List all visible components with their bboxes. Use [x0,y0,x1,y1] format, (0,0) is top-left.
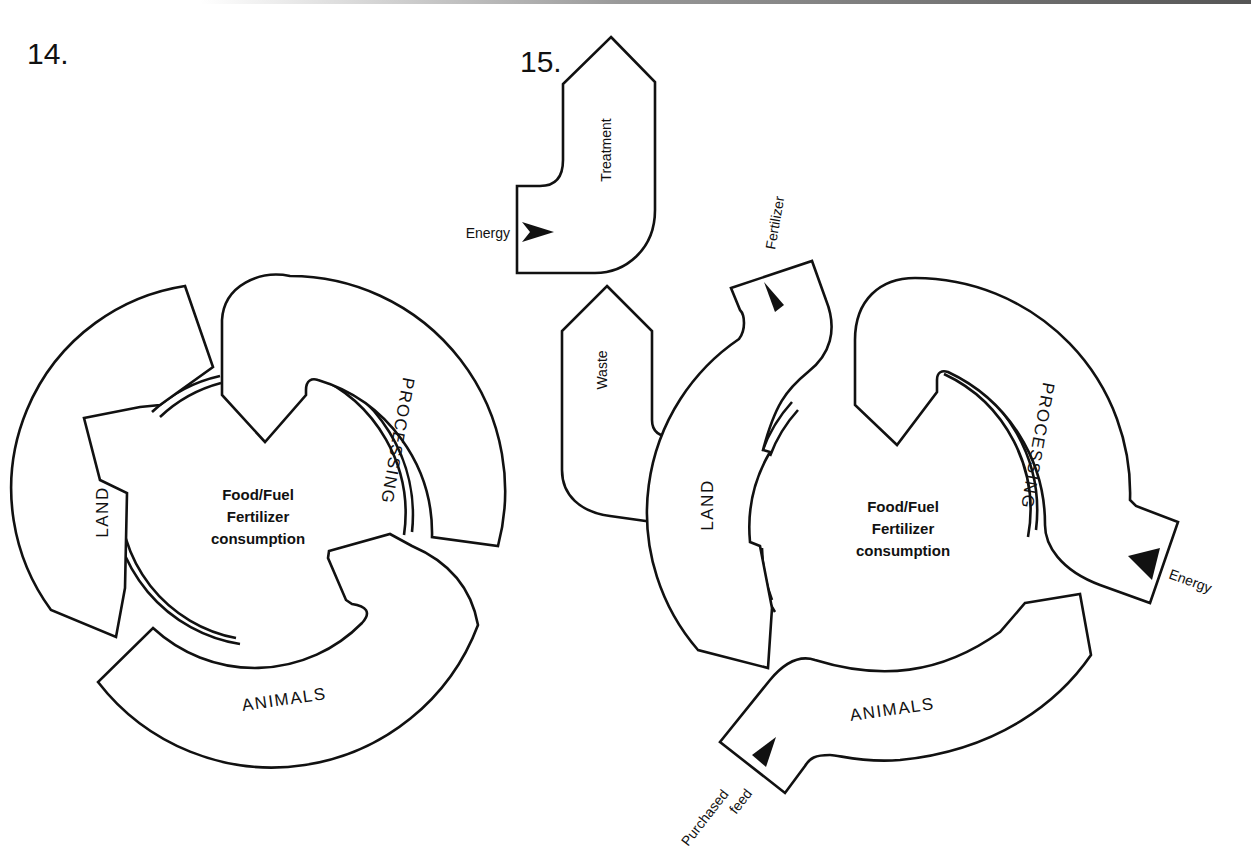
center-line-1: Food/Fuel [867,498,939,515]
land-stage-block [647,261,832,668]
land-stage-block [11,286,213,637]
figure-14-number: 14. [27,37,69,70]
fertilizer-label: Fertilizer [762,195,787,251]
animals-stage-block [720,594,1091,793]
purchased-feed-label-line1: Purchased [678,786,732,849]
figure-15: 15. Treatment Energy Waste LAND Fertiliz… [466,37,1214,849]
figure-15-number: 15. [520,45,562,78]
land-label: LAND [698,479,717,530]
purchased-feed-label-line2: feed [726,786,755,817]
processing-energy-label: Energy [1167,566,1214,596]
center-line-1: Food/Fuel [222,486,294,503]
treatment-label: Treatment [598,118,614,181]
diagram-canvas: 14. LAND PROCESSING ANIMALS Food/Fuel Fe… [0,0,1251,866]
ring-segment [120,490,236,638]
center-line-3: consumption [856,542,950,559]
figure-14: 14. LAND PROCESSING ANIMALS Food/Fuel Fe… [11,37,505,768]
center-line-3: consumption [211,530,305,547]
treatment-energy-label: Energy [466,225,510,241]
center-line-2: Fertilizer [227,508,290,525]
land-label: LAND [93,486,112,537]
center-line-2: Fertilizer [872,520,935,537]
ring-segment [112,492,240,644]
animals-stage-block [98,534,478,768]
waste-label: Waste [594,350,610,389]
